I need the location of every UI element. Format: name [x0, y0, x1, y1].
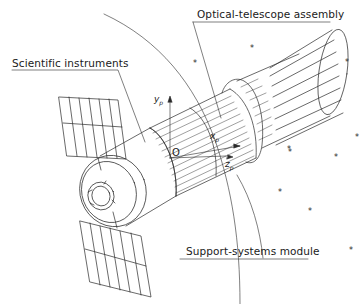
telescope-diagram: * * * * * * * * * * Optical-telescope as… [0, 0, 361, 304]
y-axis-subscript: p [159, 99, 163, 106]
solar-panel-lower [80, 212, 151, 297]
solar-panel-upper [59, 97, 126, 170]
origin-label: O [172, 147, 180, 158]
optical-telescope-tube [270, 27, 353, 145]
z-axis-subscript: p [230, 164, 234, 171]
star-icon: * [345, 58, 349, 67]
equipment-section [150, 89, 256, 196]
label-scientific-instruments: Scientific instruments [12, 57, 129, 69]
leader-optical [193, 22, 221, 118]
telescope-drawing: * * * * * * * * * * [0, 0, 361, 304]
star-icon: * [278, 188, 282, 197]
label-support-systems-module: Support-systems module [186, 245, 320, 257]
y-axis-arrow-icon [168, 96, 172, 102]
star-icon: * [308, 207, 312, 216]
star-icon: * [287, 145, 291, 154]
x-axis-label: xp [210, 131, 219, 145]
y-axis-label: yp [154, 94, 163, 108]
star-icon: * [355, 133, 359, 142]
z-axis-label: zp [225, 159, 234, 173]
x-axis-subscript: p [215, 136, 219, 143]
star-icon: * [334, 153, 338, 162]
star-icon: * [349, 246, 353, 255]
label-optical-telescope-assembly: Optical-telescope assembly [197, 8, 344, 20]
x-axis-arrow-icon [234, 144, 240, 148]
leader-scientific [12, 70, 145, 142]
star-icon: * [193, 59, 197, 68]
star-icon: * [250, 44, 254, 53]
